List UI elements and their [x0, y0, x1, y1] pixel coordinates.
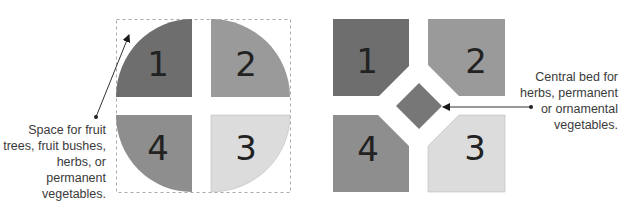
left-bed-1-label: 1: [147, 44, 169, 84]
right-caption: Central bed for herbs, permanent or orna…: [500, 69, 618, 133]
left-diagram: 1 2 3 4: [94, 19, 291, 193]
right-bed-1-label: 1: [356, 41, 378, 81]
leader-dot-icon: [94, 115, 98, 119]
right-bed-3-label: 3: [464, 128, 486, 168]
right-bed-4-label: 4: [357, 129, 379, 169]
left-bed-3-label: 3: [235, 128, 257, 168]
left-caption: Space for fruit trees, fruit bushes, her…: [0, 122, 106, 202]
right-bed-2-label: 2: [465, 41, 487, 81]
left-bed-2-label: 2: [235, 44, 257, 84]
center-bed: [396, 83, 442, 129]
left-bed-4-label: 4: [147, 128, 169, 168]
